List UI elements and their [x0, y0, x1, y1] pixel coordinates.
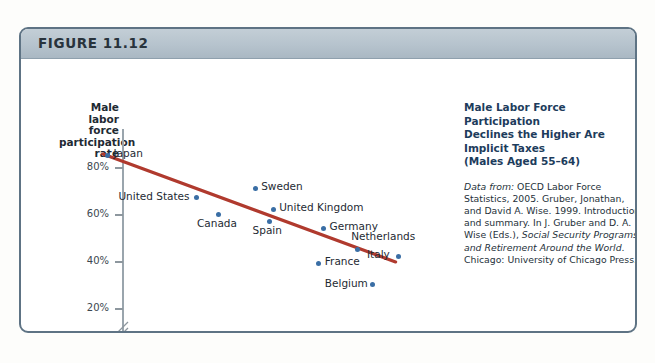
- data-point: [355, 247, 360, 252]
- y-tick-label: 20%: [69, 302, 109, 313]
- data-point-label: Spain: [253, 224, 282, 236]
- figure-container: FIGURE 11.12 Malelabor forceparticipatio…: [19, 27, 637, 333]
- caption-source: Data from: OECD Labor Force Statistics, …: [464, 181, 637, 266]
- data-point: [370, 282, 375, 287]
- y-tick: [115, 167, 123, 169]
- data-point-label: Sweden: [261, 180, 303, 192]
- caption-title: Male Labor Force Participation Declines …: [464, 101, 637, 169]
- data-point-label: France: [325, 255, 360, 267]
- y-tick-label: 40%: [69, 255, 109, 266]
- data-point: [396, 254, 401, 259]
- figure-page: FIGURE 11.12 Malelabor forceparticipatio…: [0, 0, 655, 363]
- data-point-label: Italy: [367, 248, 390, 260]
- caption-title-line-1: Male Labor Force Participation: [464, 101, 637, 128]
- data-point: [105, 153, 110, 158]
- data-point-label: Canada: [197, 217, 237, 229]
- axis-break-icon: [116, 316, 130, 333]
- scatter-plot: Malelabor forceparticipationrate Implici…: [21, 58, 441, 333]
- data-point: [271, 207, 276, 212]
- data-point: [321, 226, 326, 231]
- data-point-label: Japan: [114, 147, 143, 159]
- caption-title-line-3: (Males Aged 55–64): [464, 155, 637, 169]
- y-tick: [115, 214, 123, 216]
- y-tick: [115, 261, 123, 263]
- data-point-label: Belgium: [325, 277, 368, 289]
- y-tick: [115, 308, 123, 310]
- source-prefix: Data from:: [464, 181, 514, 192]
- y-axis-title: Malelabor forceparticipationrate: [59, 102, 119, 160]
- data-point: [253, 186, 258, 191]
- data-point: [267, 219, 272, 224]
- caption-title-line-2: Declines the Higher Are Implicit Taxes: [464, 128, 637, 155]
- y-tick-label: 80%: [69, 161, 109, 172]
- y-tick-label: 60%: [69, 208, 109, 219]
- caption-panel: Male Labor Force Participation Declines …: [464, 101, 637, 266]
- data-point-label: Netherlands: [351, 230, 415, 242]
- data-point: [194, 195, 199, 200]
- y-axis-line: [122, 129, 124, 333]
- figure-number-label: FIGURE 11.12: [38, 35, 149, 51]
- trend-line: [21, 58, 441, 333]
- data-point: [216, 212, 221, 217]
- data-point-label: United States: [118, 190, 189, 202]
- data-point-label: United Kingdom: [279, 201, 363, 213]
- data-point: [316, 261, 321, 266]
